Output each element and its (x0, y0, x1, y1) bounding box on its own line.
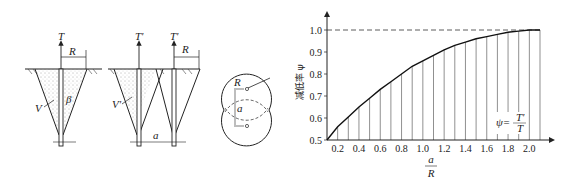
formula-denominator: T (517, 122, 524, 134)
plan-spacing-label: a (237, 102, 243, 114)
x-tick-label: 2.0 (523, 143, 536, 154)
x-tick-label: 1.4 (459, 143, 472, 154)
volume-label-twin: V' (112, 98, 122, 110)
plan-radius-label: R (233, 76, 241, 88)
x-tick-label: 1.8 (502, 143, 515, 154)
x-tick-label: 1.0 (417, 143, 430, 154)
force-label-T-prime-right: T' (170, 30, 179, 42)
y-tick-label: 0.5 (310, 135, 323, 146)
y-tick-label: 1.0 (310, 25, 323, 36)
spacing-label: a (153, 129, 159, 141)
x-tick-label: 0.2 (331, 143, 344, 154)
x-tick-label: 0.8 (395, 143, 408, 154)
x-label-numerator: a (428, 153, 434, 165)
x-label-denominator: R (427, 167, 435, 179)
x-tick-label: 0.6 (374, 143, 387, 154)
twin-anchor-diagram: a T' T' R V' (108, 30, 200, 146)
y-tick-label: 0.7 (310, 91, 323, 102)
y-tick-label: 0.6 (310, 113, 323, 124)
figure: T R V β a T' T' R V' (0, 0, 567, 186)
force-label-T: T (58, 30, 65, 42)
reduction-chart: 0.50.60.70.80.91.0 0.20.40.60.81.01.21.4… (294, 14, 552, 179)
x-tick-label: 1.2 (438, 143, 451, 154)
y-tick-label: 0.8 (310, 69, 323, 80)
y-axis-label: 减低率 ψ (294, 64, 305, 100)
y-ticks: 0.50.60.70.80.91.0 (310, 25, 328, 146)
figure-canvas: T R V β a T' T' R V' (0, 0, 567, 186)
angle-label: β (65, 93, 72, 105)
x-tick-label: 0.4 (353, 143, 366, 154)
formula-lhs: ψ= (496, 116, 510, 128)
force-label-T-prime-left: T' (135, 30, 144, 42)
radius-label: R (68, 45, 76, 57)
volume-label: V (35, 102, 43, 114)
radius-label-twin: R (181, 43, 189, 55)
plan-view-diagram: R a (222, 74, 272, 146)
x-tick-label: 1.6 (481, 143, 494, 154)
y-tick-label: 0.9 (310, 47, 323, 58)
single-anchor-diagram: T R V β (25, 30, 102, 146)
